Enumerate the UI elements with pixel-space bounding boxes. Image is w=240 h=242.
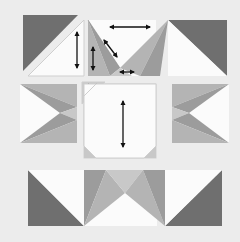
piece-top-right[interactable] [168, 20, 227, 76]
piece-middle-right[interactable] [172, 84, 229, 143]
piece-bottom-left[interactable] [28, 170, 84, 226]
piece-bottom-right[interactable] [165, 170, 222, 226]
piece-top-left[interactable] [23, 15, 84, 76]
piece-bottom-middle[interactable] [84, 170, 165, 226]
piece-center[interactable] [84, 84, 156, 158]
piece-top-middle[interactable] [88, 20, 168, 76]
quilt-block-diagram [0, 0, 240, 242]
piece-middle-left[interactable] [20, 84, 77, 143]
